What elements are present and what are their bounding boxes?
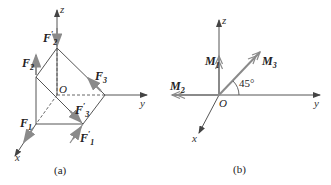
caption-b: (b) [233, 164, 246, 175]
figure-canvas [0, 0, 331, 185]
dashed-edge-x [36, 95, 57, 124]
x-axis-label-b: x [192, 133, 197, 144]
force-label-f2: F2 [22, 57, 34, 72]
origin-label-a: O [59, 84, 67, 95]
y-axis-label-b: y [314, 98, 319, 109]
x-axis-label-a: x [15, 152, 20, 163]
force-label-f1-prime: F′1 [80, 131, 94, 147]
z-axis-label-b: z [222, 15, 226, 26]
origin-label-b: O [219, 98, 227, 109]
force-label-f3: F3 [95, 70, 107, 85]
y-axis-label-a: y [140, 98, 145, 109]
moment-label-m3: M3 [262, 55, 277, 70]
x-axis-b [199, 95, 219, 133]
caption-a: (a) [54, 165, 66, 176]
edge-top-left [36, 48, 57, 77]
moment-label-m1: M1 [205, 55, 220, 70]
moment-label-m2: M2 [170, 80, 185, 95]
z-axis-label-a: z [60, 4, 64, 15]
force-label-f1: F1 [20, 117, 32, 132]
force-label-f3-prime: F′3 [75, 103, 89, 119]
force-label-f2-prime: F′2 [43, 31, 57, 47]
angle-label: 45° [239, 78, 254, 89]
